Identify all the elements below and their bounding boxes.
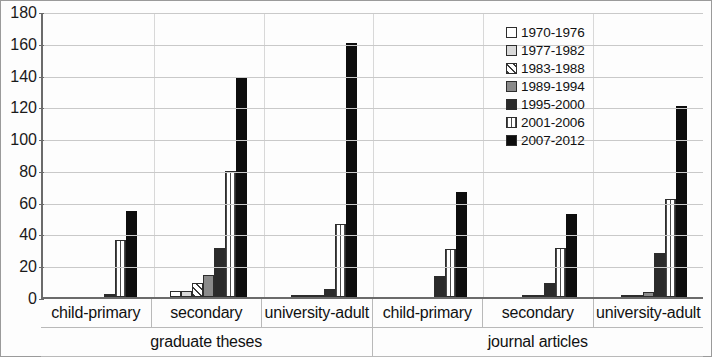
bar (533, 295, 544, 297)
legend-item: 2007-2012 (506, 131, 636, 149)
bar-group (45, 13, 155, 297)
legend-swatch-icon (506, 81, 517, 92)
legend-item-label: 2007-2012 (521, 133, 585, 148)
legend-swatch-icon (506, 99, 517, 110)
bar (203, 275, 214, 297)
y-axis-tick-label: 180 (3, 5, 37, 21)
legend-item: 1983-1988 (506, 59, 636, 77)
legend-item: 1977-1982 (506, 41, 636, 59)
bar-group (374, 13, 484, 297)
bar (170, 291, 181, 297)
category-label: secondary (483, 299, 594, 328)
super-category-label: graduate theses (41, 328, 373, 357)
bar (346, 43, 357, 297)
bar (456, 192, 467, 297)
category-axis: child-primarysecondaryuniversity-adultch… (41, 299, 703, 357)
bar (566, 214, 577, 297)
category-label-row: child-primarysecondaryuniversity-adultch… (41, 299, 703, 328)
legend-item-label: 1970-1976 (521, 25, 585, 40)
bar-group (265, 13, 375, 297)
bar (445, 249, 456, 297)
super-category-label: journal articles (373, 328, 704, 357)
y-axis-tick-mark (39, 235, 44, 236)
gridline (43, 267, 703, 268)
legend-item: 1989-1994 (506, 77, 636, 95)
bar (225, 171, 236, 297)
bar (676, 106, 687, 297)
bar (192, 283, 203, 297)
y-axis-tick-label: 0 (3, 291, 37, 307)
chart-legend: 1970-19761977-19821983-19881989-19941995… (506, 23, 636, 149)
y-axis: 020406080100120140160180 (1, 13, 37, 299)
bar (643, 292, 654, 297)
legend-item-label: 2001-2006 (521, 115, 585, 130)
category-label: secondary (152, 299, 263, 328)
y-axis-tick-mark (39, 204, 44, 205)
legend-item-label: 1983-1988 (521, 61, 585, 76)
y-axis-tick-mark (39, 172, 44, 173)
bar-stack (280, 13, 358, 297)
category-label: child-primary (41, 299, 152, 328)
bar (302, 295, 313, 297)
bar-group (155, 13, 265, 297)
bar (181, 291, 192, 297)
y-axis-tick-mark (39, 13, 44, 14)
legend-item-label: 1995-2000 (521, 97, 585, 112)
bar (665, 199, 676, 298)
bar-stack (170, 13, 248, 297)
legend-swatch-icon (506, 117, 517, 128)
legend-swatch-icon (506, 27, 517, 38)
y-axis-tick-label: 80 (3, 164, 37, 180)
category-label: university-adult (262, 299, 373, 328)
bar (126, 211, 137, 297)
category-label: child-primary (373, 299, 484, 328)
legend-swatch-icon (506, 63, 517, 74)
super-category-label-row: graduate thesesjournal articles (41, 328, 703, 357)
bar-stack (390, 13, 468, 297)
legend-item: 1970-1976 (506, 23, 636, 41)
y-axis-tick-label: 100 (3, 132, 37, 148)
gridline (43, 235, 703, 236)
bar (621, 295, 632, 297)
bar (236, 78, 247, 297)
y-axis-tick-label: 140 (3, 69, 37, 85)
category-label: university-adult (594, 299, 704, 328)
legend-item-label: 1989-1994 (521, 79, 585, 94)
y-axis-tick-label: 120 (3, 100, 37, 116)
bar-chart: 020406080100120140160180 1970-19761977-1… (0, 0, 712, 357)
legend-swatch-icon (506, 45, 517, 56)
bar (104, 294, 115, 297)
bar (544, 283, 555, 297)
bar (291, 295, 302, 297)
bar (115, 240, 126, 297)
bar (632, 295, 643, 297)
y-axis-tick-mark (39, 299, 44, 300)
bar (654, 253, 665, 297)
bar (313, 295, 324, 297)
bar (324, 289, 335, 297)
y-axis-tick-mark (39, 45, 44, 46)
gridline (43, 204, 703, 205)
bar (434, 276, 445, 297)
y-axis-tick-mark (39, 140, 44, 141)
legend-item: 2001-2006 (506, 113, 636, 131)
legend-swatch-icon (506, 135, 517, 146)
bar-stack (60, 13, 138, 297)
y-axis-tick-label: 60 (3, 196, 37, 212)
y-axis-tick-label: 40 (3, 227, 37, 243)
y-axis-tick-mark (39, 267, 44, 268)
y-axis-tick-mark (39, 77, 44, 78)
y-axis-tick-label: 20 (3, 259, 37, 275)
gridline (43, 13, 703, 14)
legend-item: 1995-2000 (506, 95, 636, 113)
gridline (43, 172, 703, 173)
y-axis-tick-label: 160 (3, 37, 37, 53)
y-axis-tick-mark (39, 108, 44, 109)
legend-item-label: 1977-1982 (521, 43, 585, 58)
bar (214, 248, 225, 297)
bar (522, 295, 533, 297)
bar (555, 248, 566, 297)
